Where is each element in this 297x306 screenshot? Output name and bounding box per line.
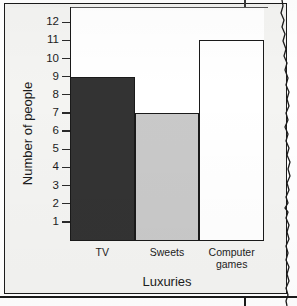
y-tick-9 xyxy=(62,76,70,77)
x-label-sweets: Sweets xyxy=(135,247,200,259)
plot-top-rule xyxy=(70,7,268,8)
y-tick-8 xyxy=(62,94,70,95)
x-axis-line xyxy=(70,240,264,241)
y-tick-4 xyxy=(62,167,70,168)
bar-tv xyxy=(70,77,135,240)
y-tick-5 xyxy=(62,149,70,150)
x-label-line: games xyxy=(199,259,264,271)
y-tick-1 xyxy=(62,221,70,222)
bar-chart: 121110987654321 TVSweetsComputergames Lu… xyxy=(0,0,297,306)
bar-sweets xyxy=(135,113,200,240)
x-label-line: TV xyxy=(70,247,135,259)
y-tick-11 xyxy=(62,40,70,41)
x-label-tv: TV xyxy=(70,247,135,259)
x-axis-title: Luxuries xyxy=(70,274,264,289)
y-tick-6 xyxy=(62,130,70,131)
y-axis-title: Number of people xyxy=(20,44,35,224)
x-label-computer-games: Computergames xyxy=(199,247,264,270)
y-tick-7 xyxy=(62,112,70,113)
y-tick-12 xyxy=(62,22,70,23)
chart-page: 121110987654321 TVSweetsComputergames Lu… xyxy=(0,0,297,306)
y-tick-2 xyxy=(62,203,70,204)
x-label-line: Computer xyxy=(199,247,264,259)
y-tick-10 xyxy=(62,58,70,59)
y-tick-label-12: 12 xyxy=(29,16,59,28)
bar-computer-games xyxy=(199,40,264,240)
y-tick-3 xyxy=(62,185,70,186)
x-label-line: Sweets xyxy=(135,247,200,259)
